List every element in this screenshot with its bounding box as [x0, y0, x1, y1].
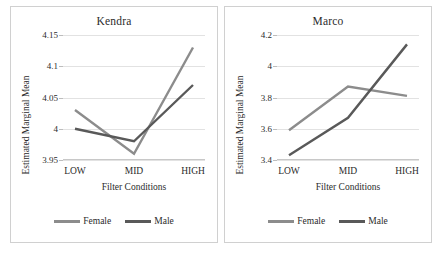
series-lines [63, 35, 205, 160]
x-tick-label: HIGH [181, 166, 205, 176]
page-title: Marco [225, 15, 431, 27]
y-tick-label: 4.05 [42, 93, 58, 102]
x-tick-label: HIGH [395, 166, 419, 176]
x-tick-label: MID [125, 166, 143, 176]
plot-area: 3.43.63.844.2 LOWMIDHIGH Filter Conditio… [277, 35, 419, 160]
y-tick-mark [59, 160, 63, 161]
y-tick-label: 3.6 [261, 124, 272, 133]
x-tick-label: LOW [278, 166, 300, 176]
series-line-male [289, 44, 407, 155]
legend-item-male: Male [125, 216, 174, 226]
page-title: Kendra [11, 15, 217, 27]
plot-area: 3.9544.054.14.15 LOWMIDHIGH Filter Condi… [63, 35, 205, 160]
legend-label-female: Female [297, 216, 325, 226]
series-line-male [75, 85, 193, 141]
legend-label-male: Male [154, 216, 174, 226]
legend-item-female: Female [54, 216, 111, 226]
y-tick-mark [273, 160, 277, 161]
y-tick-label: 3.4 [261, 156, 272, 165]
interaction-plot-figure: Kendra Estimated Marginal Mean 3.9544.05… [0, 0, 448, 255]
y-axis-label: Estimated Marginal Mean [235, 62, 245, 188]
y-tick-label: 4.2 [261, 31, 272, 40]
legend: Female Male [11, 216, 217, 226]
legend-swatch-female-icon [54, 220, 80, 223]
legend-label-male: Male [368, 216, 388, 226]
x-axis-label: Filter Conditions [277, 182, 419, 192]
y-tick-label: 4 [54, 124, 59, 133]
legend-swatch-male-icon [339, 220, 365, 223]
gridline [277, 160, 419, 161]
y-tick-label: 4 [268, 62, 273, 71]
legend-swatch-male-icon [125, 220, 151, 223]
x-axis-label: Filter Conditions [63, 182, 205, 192]
legend-item-female: Female [268, 216, 325, 226]
y-tick-label: 3.8 [261, 93, 272, 102]
x-tick-label: MID [339, 166, 357, 176]
y-axis-label: Estimated Marginal Mean [21, 62, 31, 188]
chart-panel-marco: Marco Estimated Marginal Mean 3.43.63.84… [224, 6, 432, 243]
legend-swatch-female-icon [268, 220, 294, 223]
legend-item-male: Male [339, 216, 388, 226]
y-tick-label: 3.95 [42, 156, 58, 165]
y-tick-label: 4.1 [47, 62, 58, 71]
series-lines [277, 35, 419, 160]
chart-panel-kendra: Kendra Estimated Marginal Mean 3.9544.05… [10, 6, 218, 243]
y-tick-label: 4.15 [42, 31, 58, 40]
x-tick-label: LOW [64, 166, 86, 176]
legend-label-female: Female [83, 216, 111, 226]
series-line-female [289, 87, 407, 131]
legend: Female Male [225, 216, 431, 226]
gridline [63, 160, 205, 161]
